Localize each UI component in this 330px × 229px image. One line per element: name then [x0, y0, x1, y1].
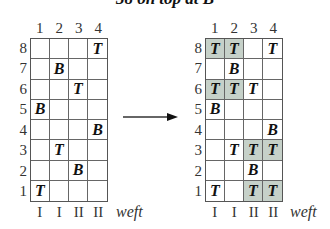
grid-cell	[31, 39, 50, 59]
right-row-numbers: 8 7 6 5 4 3 2 1	[185, 38, 205, 202]
grid-cell	[50, 39, 69, 59]
grid-cell	[225, 161, 244, 181]
grid-cell	[263, 59, 282, 79]
left-weft-labels: I I II II	[30, 204, 108, 221]
grid-cell: T	[244, 140, 263, 160]
row-number: 6	[10, 79, 30, 100]
grid-cell: B	[88, 120, 107, 140]
grid-cell	[244, 39, 263, 59]
column-number: 1	[30, 20, 50, 37]
weft-label: II	[264, 204, 284, 221]
grid-cell	[263, 161, 282, 181]
grid-cell	[225, 120, 244, 140]
column-number: 4	[264, 20, 284, 37]
grid-cell: B	[263, 120, 282, 140]
right-arrow-icon	[123, 112, 178, 122]
grid-cell	[88, 59, 107, 79]
grid-cell: B	[206, 100, 225, 120]
grid-cell: T	[225, 80, 244, 100]
column-number: 3	[69, 20, 89, 37]
right-weave-grid: TTTBTTTBBTTTBTTT	[205, 38, 283, 202]
grid-cell: B	[31, 100, 50, 120]
row-number: 2	[185, 161, 205, 182]
grid-cell	[244, 100, 263, 120]
weft-label: II	[69, 204, 89, 221]
grid-cell	[225, 100, 244, 120]
grid-cell	[69, 59, 88, 79]
weft-label: I	[50, 204, 70, 221]
row-number: 2	[10, 161, 30, 182]
grid-cell	[263, 100, 282, 120]
column-number: 1	[205, 20, 225, 37]
grid-cell	[225, 181, 244, 201]
row-number: 8	[10, 38, 30, 59]
grid-cell	[244, 59, 263, 79]
grid-cell: B	[69, 161, 88, 181]
left-weft-caption: weft	[116, 203, 143, 221]
grid-cell: T	[206, 39, 225, 59]
grid-cell: T	[206, 80, 225, 100]
grid-cell	[31, 80, 50, 100]
grid-cell	[50, 120, 69, 140]
grid-cell	[50, 161, 69, 181]
row-number: 5	[10, 100, 30, 121]
grid-cell: T	[263, 39, 282, 59]
grid-cell	[88, 161, 107, 181]
column-number: 2	[50, 20, 70, 37]
column-number: 2	[225, 20, 245, 37]
row-number: 8	[185, 38, 205, 59]
right-column-numbers: 1 2 3 4	[205, 20, 283, 37]
weft-label: I	[225, 204, 245, 221]
grid-cell	[244, 120, 263, 140]
row-number: 1	[10, 182, 30, 203]
row-number: 3	[185, 141, 205, 162]
row-number: 5	[185, 100, 205, 121]
grid-cell	[88, 80, 107, 100]
grid-cell	[69, 181, 88, 201]
row-number: 3	[10, 141, 30, 162]
diagram-title: 38 on top at B	[0, 0, 330, 9]
column-number: 3	[244, 20, 264, 37]
grid-cell: T	[263, 140, 282, 160]
grid-cell	[69, 140, 88, 160]
grid-cell	[206, 161, 225, 181]
grid-cell	[31, 59, 50, 79]
grid-cell: T	[50, 140, 69, 160]
row-number: 6	[185, 79, 205, 100]
right-weft-caption: weft	[290, 203, 317, 221]
grid-cell	[50, 181, 69, 201]
grid-cell	[206, 140, 225, 160]
grid-cell: T	[244, 181, 263, 201]
grid-cell	[50, 100, 69, 120]
left-column-numbers: 1 2 3 4	[30, 20, 108, 37]
left-weave-grid: TBTBBTBT	[30, 38, 108, 202]
grid-cell: T	[225, 39, 244, 59]
weft-label: II	[244, 204, 264, 221]
grid-cell	[88, 100, 107, 120]
row-number: 1	[185, 182, 205, 203]
grid-cell: T	[31, 181, 50, 201]
right-weft-labels: I I II II	[205, 204, 283, 221]
grid-cell: T	[88, 39, 107, 59]
grid-cell	[31, 120, 50, 140]
weft-label: I	[205, 204, 225, 221]
grid-cell	[50, 80, 69, 100]
grid-cell	[206, 59, 225, 79]
grid-cell: B	[50, 59, 69, 79]
grid-cell	[69, 100, 88, 120]
weft-label: II	[89, 204, 109, 221]
grid-cell: T	[69, 80, 88, 100]
grid-cell: T	[244, 80, 263, 100]
grid-cell: T	[263, 181, 282, 201]
row-number: 7	[185, 59, 205, 80]
row-number: 7	[10, 59, 30, 80]
grid-cell	[206, 120, 225, 140]
grid-cell: T	[225, 140, 244, 160]
grid-cell: B	[244, 161, 263, 181]
row-number: 4	[185, 120, 205, 141]
grid-cell	[31, 140, 50, 160]
grid-cell	[31, 161, 50, 181]
grid-cell	[69, 39, 88, 59]
grid-cell	[69, 120, 88, 140]
grid-cell	[88, 140, 107, 160]
